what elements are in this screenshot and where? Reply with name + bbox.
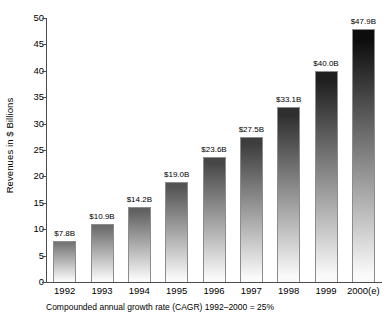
y-tick-mark: [42, 282, 46, 283]
x-tick-label: 1999: [315, 286, 336, 296]
bar-1998: [277, 107, 300, 282]
y-tick-mark: [42, 97, 46, 98]
bar-value-label: $14.2B: [127, 196, 152, 204]
x-tick-label: 2000(e): [347, 286, 380, 296]
bar-chart: Revenues in $ Billions 05101520253035404…: [0, 0, 392, 328]
y-tick-label: 45: [18, 40, 44, 50]
y-tick-mark: [42, 176, 46, 177]
y-tick-mark: [42, 229, 46, 230]
y-tick-label: 40: [18, 66, 44, 76]
x-tick-label: 1995: [166, 286, 187, 296]
bar-1994: [128, 207, 151, 282]
y-tick-label: 25: [18, 145, 44, 155]
bar-1997: [240, 137, 263, 282]
y-axis-tick-labels: 05101520253035404550: [18, 18, 44, 283]
y-axis-title: Revenues in $ Billions: [0, 0, 20, 290]
plot-area: $7.8B$10.9B$14.2B$19.0B$23.6B$27.5B$33.1…: [46, 18, 382, 283]
bar-group: $27.5B: [240, 18, 263, 282]
y-tick-mark: [42, 18, 46, 19]
x-tick-label: 1996: [203, 286, 224, 296]
bar-1993: [91, 224, 114, 282]
bar-value-label: $19.0B: [164, 171, 189, 179]
y-tick-mark: [42, 150, 46, 151]
bar-value-label: $23.6B: [201, 146, 226, 154]
y-tick-label: 0: [18, 277, 44, 287]
cagr-footnote: Compounded annual growth rate (CAGR) 199…: [46, 303, 382, 312]
x-tick-label: 1993: [91, 286, 112, 296]
x-tick-label: 1998: [278, 286, 299, 296]
y-tick-label: 20: [18, 172, 44, 182]
bar-group: $23.6B: [203, 18, 226, 282]
bar-2000(e): [352, 29, 375, 282]
bar-group: $10.9B: [91, 18, 114, 282]
x-tick-label: 1992: [54, 286, 75, 296]
y-tick-mark: [42, 71, 46, 72]
y-tick-label: 50: [18, 13, 44, 23]
bar-1999: [315, 71, 338, 282]
y-tick-label: 35: [18, 92, 44, 102]
bar-value-label: $40.0B: [313, 60, 338, 68]
y-tick-label: 5: [18, 251, 44, 261]
bar-group: $19.0B: [165, 18, 188, 282]
y-tick-mark: [42, 256, 46, 257]
y-axis-title-label: Revenues in $ Billions: [5, 97, 16, 193]
bar-group: $7.8B: [53, 18, 76, 282]
bar-value-label: $47.9B: [351, 18, 376, 26]
y-tick-label: 30: [18, 119, 44, 129]
y-tick-mark: [42, 124, 46, 125]
bar-1992: [53, 241, 76, 282]
x-axis-tick-labels: 199219931994199519961997199819992000(e): [46, 286, 382, 300]
y-tick-mark: [42, 203, 46, 204]
x-tick-label: 1997: [241, 286, 262, 296]
bar-value-label: $7.8B: [54, 230, 75, 238]
bar-value-label: $33.1B: [276, 96, 301, 104]
bar-group: $47.9B: [352, 18, 375, 282]
y-tick-mark: [42, 44, 46, 45]
x-tick-label: 1994: [129, 286, 150, 296]
bar-1996: [203, 157, 226, 282]
bar-value-label: $10.9B: [89, 213, 114, 221]
bar-group: $33.1B: [277, 18, 300, 282]
bar-group: $40.0B: [315, 18, 338, 282]
bar-group: $14.2B: [128, 18, 151, 282]
y-tick-label: 10: [18, 224, 44, 234]
bars-layer: $7.8B$10.9B$14.2B$19.0B$23.6B$27.5B$33.1…: [46, 18, 382, 283]
bar-value-label: $27.5B: [239, 126, 264, 134]
y-tick-label: 15: [18, 198, 44, 208]
bar-1995: [165, 182, 188, 282]
